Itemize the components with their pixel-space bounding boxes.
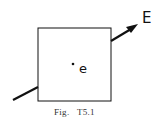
figure-caption: Fig. T5.1 [54,107,95,117]
field-line-in [13,87,38,100]
charge-dot [72,63,75,66]
field-label: E [142,9,151,27]
field-line-out [111,29,131,41]
box [38,28,111,101]
charge-label: e [79,61,87,76]
